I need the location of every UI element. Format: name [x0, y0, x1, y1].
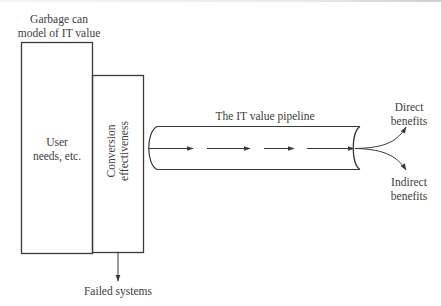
conversion-label-line2: effectiveness — [118, 106, 131, 196]
user-needs-label-line2: needs, etc. — [22, 149, 92, 163]
user-needs-label: User needs, etc. — [22, 135, 92, 163]
direct-benefits-label: Direct benefits — [382, 100, 436, 128]
failed-systems-label: Failed systems — [68, 284, 168, 298]
indirect-benefits-arrow — [355, 149, 406, 171]
garbage-can-label: Garbage can model of IT value — [14, 12, 104, 40]
garbage-can-label-line2: model of IT value — [14, 26, 104, 40]
failed-systems-text: Failed systems — [68, 284, 168, 298]
indirect-label-line1: Indirect — [382, 175, 436, 189]
indirect-label-line2: benefits — [382, 189, 436, 203]
conversion-effectiveness-label: Conversion effectiveness — [105, 106, 133, 196]
pipeline-text: The IT value pipeline — [205, 109, 325, 123]
direct-label-line1: Direct — [382, 100, 436, 114]
pipeline-label: The IT value pipeline — [205, 109, 325, 123]
user-needs-label-line1: User — [22, 135, 92, 149]
conversion-label-line1: Conversion — [105, 106, 118, 196]
direct-label-line2: benefits — [382, 114, 436, 128]
garbage-can-label-line1: Garbage can — [14, 12, 104, 26]
direct-benefits-arrow — [355, 127, 406, 149]
indirect-benefits-label: Indirect benefits — [382, 175, 436, 203]
